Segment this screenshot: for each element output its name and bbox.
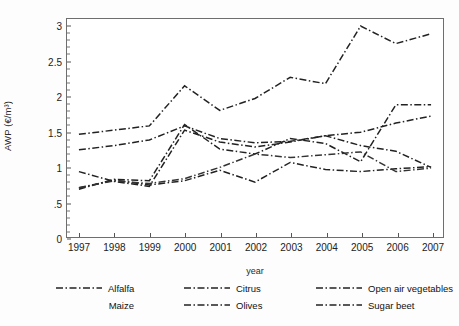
legend-item-label: Alfalfa (108, 283, 134, 294)
y-minor-tick-mark (67, 160, 70, 161)
y-minor-tick-mark (67, 75, 70, 76)
y-tick-mark (67, 203, 71, 204)
y-tick-label: 2 (56, 92, 62, 103)
series-line (79, 130, 431, 186)
y-minor-tick-mark (67, 33, 70, 34)
x-tick-label: 2001 (209, 242, 231, 253)
x-tick-mark (79, 233, 80, 237)
y-minor-tick-mark (67, 139, 70, 140)
legend-line-swatch-icon (184, 283, 230, 293)
y-tick-mark (67, 168, 71, 169)
legend-item-label: Citrus (236, 283, 261, 294)
legend-item-label: Open air vegetables (368, 283, 453, 294)
x-tick-mark (362, 233, 363, 237)
x-tick-mark (433, 233, 434, 237)
x-tick-mark (114, 233, 115, 237)
legend-item: Citrus (184, 281, 261, 295)
y-tick-mark (67, 97, 71, 98)
legend-item: Open air vegetables (316, 281, 453, 295)
x-tick-label: 2003 (280, 242, 302, 253)
y-minor-tick-mark (67, 125, 70, 126)
y-tick-label: 0 (56, 234, 62, 245)
y-tick-mark (67, 239, 71, 240)
legend-item-label: Maize (109, 300, 134, 311)
x-tick-mark (185, 233, 186, 237)
x-tick-label: 2006 (386, 242, 408, 253)
y-minor-tick-mark (67, 175, 70, 176)
legend-line-swatch-icon (316, 283, 362, 293)
x-tick-mark (398, 233, 399, 237)
y-minor-tick-mark (67, 89, 70, 90)
y-minor-tick-mark (67, 217, 70, 218)
y-minor-tick-mark (67, 189, 70, 190)
x-tick-mark (221, 233, 222, 237)
x-tick-label: 1999 (139, 242, 161, 253)
y-tick-label: 3 (56, 21, 62, 32)
y-minor-tick-mark (67, 196, 70, 197)
series-line (79, 26, 431, 134)
y-minor-tick-mark (67, 210, 70, 211)
y-tick-mark (67, 61, 71, 62)
y-minor-tick-mark (67, 153, 70, 154)
x-tick-label: 1997 (68, 242, 90, 253)
chart-lines-svg (67, 19, 443, 237)
y-minor-tick-mark (67, 182, 70, 183)
y-tick-mark (67, 132, 71, 133)
x-axis-label: year (66, 266, 444, 276)
x-tick-label: 2004 (316, 242, 338, 253)
y-minor-tick-mark (67, 111, 70, 112)
x-tick-mark (256, 233, 257, 237)
chart-plot-wrapper: AWP (€/m³) 0.511.522.5319971998199920002… (0, 0, 459, 250)
y-tick-mark (67, 26, 71, 27)
legend-item-label: Sugar beet (368, 300, 414, 311)
x-tick-mark (291, 233, 292, 237)
legend-line-swatch-icon (56, 283, 102, 293)
y-tick-label: 1.5 (48, 127, 62, 138)
legend-line-swatch-icon (316, 300, 362, 310)
y-tick-label: 2.5 (48, 56, 62, 67)
x-tick-label: 2007 (422, 242, 444, 253)
figure-root: AWP (€/m³) 0.511.522.5319971998199920002… (0, 0, 459, 326)
x-tick-mark (327, 233, 328, 237)
legend-item: Alfalfa (56, 281, 134, 295)
y-minor-tick-mark (67, 118, 70, 119)
legend-line-swatch-icon (184, 300, 230, 310)
legend-item: Maize (56, 298, 134, 312)
y-axis-label: AWP (€/m³) (2, 78, 16, 174)
y-minor-tick-mark (67, 231, 70, 232)
y-minor-tick-mark (67, 40, 70, 41)
legend-item: Sugar beet (316, 298, 414, 312)
y-minor-tick-mark (67, 146, 70, 147)
legend-item-label: Olives (236, 300, 262, 311)
x-tick-label: 2005 (351, 242, 373, 253)
y-minor-tick-mark (67, 47, 70, 48)
y-minor-tick-mark (67, 54, 70, 55)
y-minor-tick-mark (67, 104, 70, 105)
y-tick-label: 1 (56, 163, 62, 174)
x-tick-label: 2002 (245, 242, 267, 253)
y-minor-tick-mark (67, 82, 70, 83)
x-tick-mark (150, 233, 151, 237)
y-tick-label: .5 (54, 198, 62, 209)
plot-area: 0.511.522.531997199819992000200120022003… (66, 18, 444, 238)
y-minor-tick-mark (67, 68, 70, 69)
legend-item: Olives (184, 298, 262, 312)
x-tick-label: 1998 (103, 242, 125, 253)
y-minor-tick-mark (67, 224, 70, 225)
chart-legend: AlfalfaMaizeCitrusOlivesOpen air vegetab… (56, 281, 454, 315)
x-tick-label: 2000 (174, 242, 196, 253)
caption-fragment (100, 316, 440, 325)
